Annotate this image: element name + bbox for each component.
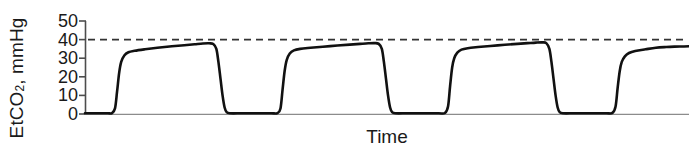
capnography-chart-figure: EtCO2, mmHg 50 40 30 20 10 0 Time <box>0 0 689 156</box>
etco2-waveform-trace <box>85 42 689 113</box>
x-axis-title: Time <box>85 126 689 148</box>
